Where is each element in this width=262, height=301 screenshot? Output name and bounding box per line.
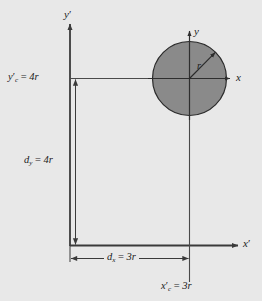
distance-y-value: 4r (44, 154, 53, 165)
centroid-y-value: 4r (29, 71, 38, 82)
centroid-x-value: 3r (182, 280, 191, 291)
geometry-figure: y′ x′ y x r y′c = 4r dy = 4r dx = 3r x′c… (0, 0, 262, 301)
x-prime-axis-label-prime: ′ (248, 237, 250, 249)
y-prime-axis-label-prime: ′ (69, 8, 71, 20)
distance-x-equals: = (115, 251, 126, 262)
local-x-axis-label: x (236, 72, 241, 83)
centroid-x-label: x′c = 3r (161, 281, 192, 293)
radius-label: r (197, 61, 201, 71)
distance-y-equals: = (32, 154, 43, 165)
distance-x-label: dx = 3r (104, 252, 139, 264)
x-prime-axis-label: x′ (243, 238, 250, 249)
centroid-x-equals: = (171, 280, 182, 291)
distance-x-value: 3r (127, 251, 136, 262)
y-prime-axis-label: y′ (64, 9, 71, 20)
centroid-y-label: y′c = 4r (8, 72, 39, 84)
local-y-axis-label: y (194, 26, 199, 37)
centroid-y-equals: = (18, 71, 29, 82)
distance-y-label: dy = 4r (24, 155, 53, 167)
